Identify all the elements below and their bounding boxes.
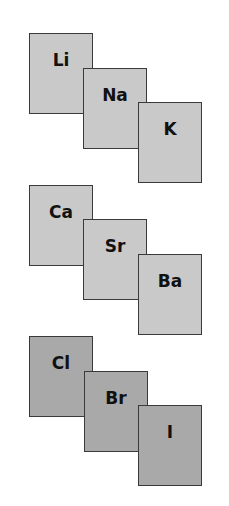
element-card-k: K [138, 102, 202, 183]
element-symbol: Cl [52, 353, 70, 373]
element-symbol: Ca [49, 202, 73, 222]
element-symbol: K [163, 119, 176, 139]
element-symbol: Ba [158, 271, 182, 291]
element-symbol: Br [105, 388, 126, 408]
element-symbol: Na [102, 85, 128, 105]
element-symbol: Sr [105, 236, 126, 256]
element-card-ba: Ba [138, 254, 202, 335]
element-symbol: Li [53, 50, 70, 70]
element-card-i: I [138, 405, 202, 486]
element-symbol: I [167, 422, 173, 442]
